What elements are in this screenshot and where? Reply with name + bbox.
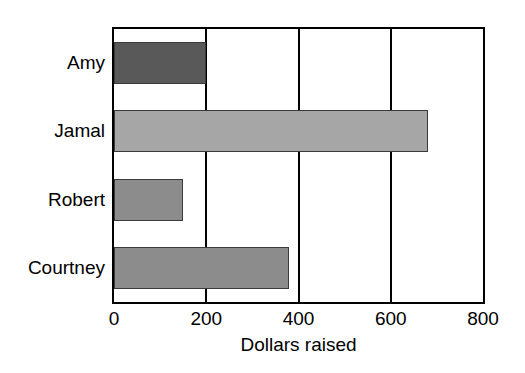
category-label-courtney: Courtney xyxy=(0,258,105,277)
plot-area xyxy=(112,27,485,304)
category-axis-labels: Amy Jamal Robert Courtney xyxy=(0,27,105,304)
bar-row-amy xyxy=(114,42,483,84)
bar-amy xyxy=(114,42,206,84)
bar-courtney xyxy=(114,247,289,289)
x-tick-600: 600 xyxy=(375,308,407,330)
category-label-robert: Robert xyxy=(0,190,105,209)
bar-row-jamal xyxy=(114,110,483,152)
plot-surface xyxy=(114,29,483,302)
x-tick-200: 200 xyxy=(190,308,222,330)
bar-jamal xyxy=(114,110,428,152)
x-tick-0: 0 xyxy=(109,308,120,330)
x-tick-400: 400 xyxy=(283,308,315,330)
bar-row-robert xyxy=(114,179,483,221)
bar-chart: Amy Jamal Robert Courtney 0 200 xyxy=(0,0,525,373)
bar-robert xyxy=(114,179,183,221)
x-axis-title: Dollars raised xyxy=(112,334,485,356)
bar-row-courtney xyxy=(114,247,483,289)
category-label-amy: Amy xyxy=(0,53,105,72)
value-axis-ticks: 0 200 400 600 800 xyxy=(112,308,485,334)
category-label-jamal: Jamal xyxy=(0,121,105,140)
x-tick-800: 800 xyxy=(467,308,499,330)
